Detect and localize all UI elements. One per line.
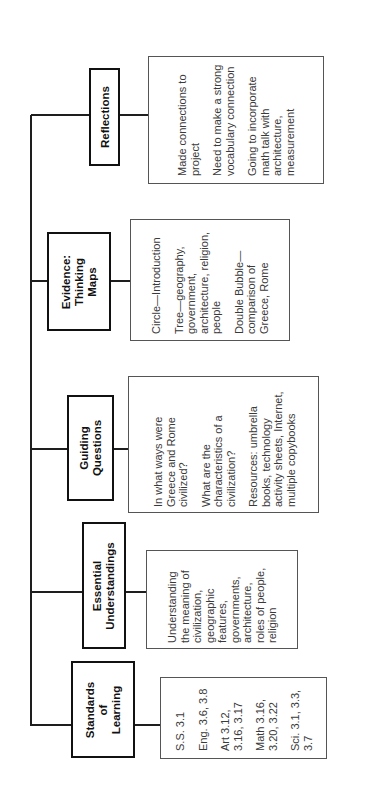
heading-line: Essential [91, 542, 104, 630]
heading-line: Understandings [104, 542, 117, 630]
heading-text: Guiding Questions [78, 420, 104, 476]
spine-line [30, 115, 32, 726]
heading-reflections: Reflections [89, 68, 120, 166]
heading-guiding: Guiding Questions [67, 395, 114, 501]
connector-essential-content [126, 591, 146, 593]
connector-evidence-content [111, 280, 130, 282]
connector-evidence [31, 280, 47, 282]
connector-guiding [31, 448, 67, 450]
content-standards: S.S. 3.1 Eng. 3.6, 3.8 Art 3.12, 3.16, 3… [160, 677, 327, 759]
heading-line: Maps [86, 254, 99, 308]
content-item: Art 3.12, 3.16, 3.17 [219, 685, 244, 751]
content-item: Resources: umbrella books, technology ac… [246, 383, 296, 507]
content-item: Understanding the meaning of civilizatio… [166, 557, 279, 643]
heading-text: Essential Understandings [91, 542, 117, 630]
content-item: S.S. 3.1 [174, 685, 187, 751]
heading-text: Reflections [98, 86, 111, 148]
connector-guiding-content [114, 448, 128, 450]
heading-text: Standards of Learning [84, 681, 123, 737]
content-item: Double Bubble—comparison of Greece, Rome [233, 226, 271, 334]
heading-line: Guiding [78, 420, 91, 476]
content-guiding: In what ways were Greece and Rome civili… [128, 376, 319, 513]
content-text: Understanding the meaning of civilizatio… [166, 557, 279, 643]
connector-standards [31, 724, 71, 726]
content-item: Sci. 3.1, 3.3, 3.7 [289, 685, 314, 751]
heading-line: Thinking [73, 254, 86, 308]
content-text: Circle—Introduction Tree—geography, gove… [150, 226, 270, 334]
content-item: Math 3.16, 3.20, 3.22 [254, 685, 279, 751]
content-essential: Understanding the meaning of civilizatio… [146, 550, 298, 649]
heading-standards: Standards of Learning [71, 661, 135, 758]
heading-evidence: Evidence: Thinking Maps [47, 232, 111, 331]
heading-line: Evidence: [60, 254, 73, 308]
connector-reflections [31, 114, 89, 116]
connector-reflections-content [120, 114, 148, 116]
heading-line: of [97, 681, 110, 737]
content-item: Made connections to project [176, 64, 201, 176]
content-text: In what ways were Greece and Rome civili… [151, 383, 296, 507]
heading-essential: Essential Understandings [82, 522, 126, 649]
content-item: Need to make a strong vocabulary connect… [211, 64, 236, 176]
content-evidence: Circle—Introduction Tree—geography, gove… [130, 219, 290, 341]
heading-line: Learning [110, 681, 123, 737]
content-item: Circle—Introduction [150, 226, 163, 334]
heading-text: Evidence: Thinking Maps [60, 254, 99, 308]
content-item: Tree—geography, government, architecture… [173, 226, 223, 334]
content-item: In what ways were Greece and Rome civili… [151, 383, 189, 507]
content-reflections: Made connections to project Need to make… [148, 56, 324, 184]
content-item: Going to incorporate math talk with arch… [246, 64, 296, 176]
content-item: What are the characteristics of a civili… [199, 383, 237, 507]
content-text: Made connections to project Need to make… [176, 64, 296, 176]
connector-essential [31, 591, 82, 593]
content-text: S.S. 3.1 Eng. 3.6, 3.8 Art 3.12, 3.16, 3… [174, 685, 314, 751]
heading-line: Reflections [98, 86, 111, 148]
content-item: Eng. 3.6, 3.8 [196, 685, 209, 751]
heading-line: Questions [91, 420, 104, 476]
connector-standards-content [135, 724, 160, 726]
heading-line: Standards [84, 681, 97, 737]
